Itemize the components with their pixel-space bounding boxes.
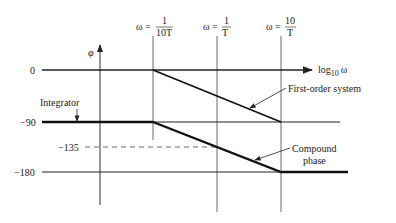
y-tick-0: 0 bbox=[30, 65, 35, 76]
y-tick-180: −180 bbox=[14, 167, 35, 178]
freq-label-1-T: ω = 1 T bbox=[203, 15, 231, 38]
svg-text:ω =: ω = bbox=[266, 21, 281, 32]
first-order-label: First-order system bbox=[288, 83, 361, 94]
svg-text:ω =: ω = bbox=[203, 21, 218, 32]
svg-text:10T: 10T bbox=[156, 27, 172, 38]
svg-text:T: T bbox=[287, 27, 293, 38]
compound-arrow bbox=[255, 148, 290, 160]
y-tick-135: −135 bbox=[58, 142, 79, 153]
phi-label: φ bbox=[88, 47, 94, 58]
svg-text:1: 1 bbox=[224, 15, 229, 26]
phase-diagram: φ 0 −90 −135 −180 Integrator First-order… bbox=[0, 0, 396, 223]
compound-label-2: phase bbox=[303, 155, 326, 166]
svg-text:ω =: ω = bbox=[136, 21, 151, 32]
svg-text:1: 1 bbox=[162, 15, 167, 26]
freq-label-1-10T: ω = 1 10T bbox=[136, 15, 173, 38]
svg-text:T: T bbox=[222, 27, 228, 38]
svg-text:10: 10 bbox=[285, 15, 295, 26]
compound-label-1: Compound bbox=[292, 143, 336, 154]
x-axis-label: log10ω bbox=[318, 64, 348, 78]
y-tick-90: −90 bbox=[20, 117, 36, 128]
freq-label-10-T: ω = 10 T bbox=[266, 15, 296, 38]
integrator-label: Integrator bbox=[40, 97, 80, 108]
